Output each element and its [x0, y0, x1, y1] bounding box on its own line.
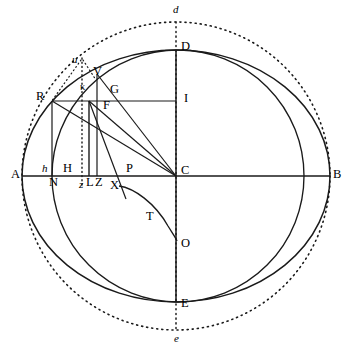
label-C: C	[181, 164, 189, 177]
label-A: A	[11, 168, 20, 181]
label-G: G	[110, 83, 119, 96]
label-Z: Z	[95, 176, 103, 189]
label-F: F	[103, 99, 110, 112]
label-u: u	[72, 54, 78, 65]
figure-canvas: A B C D E d e I R V G F κ u h H N z L Z …	[0, 0, 350, 350]
label-D: D	[181, 40, 190, 53]
label-kappa: κ	[80, 82, 85, 93]
label-N: N	[49, 176, 58, 189]
label-e: e	[174, 333, 179, 344]
label-T: T	[146, 210, 154, 223]
label-X: X	[110, 179, 119, 192]
label-h: h	[42, 163, 48, 174]
label-I: I	[184, 92, 188, 105]
label-R: R	[36, 90, 44, 103]
label-E: E	[181, 297, 189, 310]
label-V: V	[93, 65, 102, 78]
label-P: P	[126, 162, 133, 175]
label-z: z	[79, 179, 83, 190]
label-O: O	[181, 237, 190, 250]
radius-C-V	[97, 74, 176, 176]
label-B: B	[333, 168, 341, 181]
label-d: d	[173, 4, 179, 15]
label-L: L	[86, 176, 94, 189]
label-H: H	[63, 162, 72, 175]
